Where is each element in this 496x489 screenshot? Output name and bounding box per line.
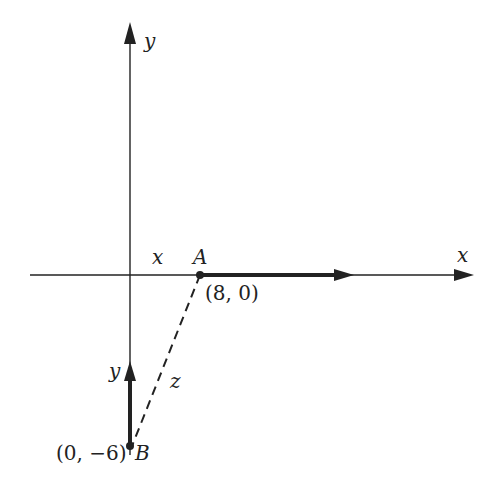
y-axis-label: y xyxy=(143,29,156,53)
y-axis-arrow-icon xyxy=(124,22,136,44)
point-b-label: B xyxy=(134,441,150,465)
y-segment-arrow-icon xyxy=(124,361,136,381)
x-axis-arrow-icon xyxy=(454,269,474,281)
x-segment-arrow-icon xyxy=(334,269,354,281)
point-b xyxy=(126,442,134,450)
x-segment-label: x xyxy=(152,245,163,269)
point-a xyxy=(196,271,204,279)
point-a-coords: (8, 0) xyxy=(205,281,259,305)
x-axis-label: x xyxy=(457,243,468,267)
y-segment-label: y xyxy=(108,359,121,383)
z-segment-label: z xyxy=(169,369,181,393)
point-a-label: A xyxy=(191,245,207,269)
diagram-canvas: y x x A (8, 0) y z (0, −6) B xyxy=(0,0,496,489)
point-b-coords: (0, −6) xyxy=(56,441,127,465)
z-segment xyxy=(132,275,200,446)
